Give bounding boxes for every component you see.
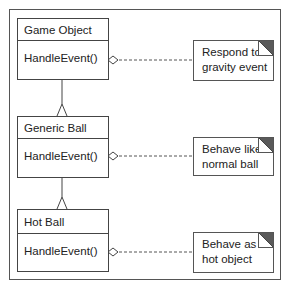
diamond-icon <box>108 152 118 160</box>
class-name: Game Object <box>18 19 108 41</box>
aggregation-arrow-icon <box>57 104 67 116</box>
class-operation: HandleEvent() <box>18 139 108 164</box>
aggregation-arrow-icon <box>57 197 67 209</box>
class-hot-ball: Hot Ball HandleEvent() <box>17 209 109 272</box>
class-game-object: Game Object HandleEvent() <box>17 18 109 80</box>
note-respond-gravity: Respond to gravity event <box>193 40 274 81</box>
class-operation: HandleEvent() <box>18 234 108 259</box>
folded-corner-icon <box>258 40 274 56</box>
class-operation: HandleEvent() <box>18 41 108 66</box>
class-generic-ball: Generic Ball HandleEvent() <box>17 116 109 178</box>
diamond-icon <box>108 248 118 256</box>
folded-corner-icon <box>258 137 274 153</box>
diamond-icon <box>108 56 118 64</box>
note-behave-hot: Behave as hot object <box>193 232 274 273</box>
class-name: Generic Ball <box>18 117 108 139</box>
class-name: Hot Ball <box>18 210 108 234</box>
note-behave-normal: Behave like normal ball <box>193 137 274 176</box>
folded-corner-icon <box>258 232 274 248</box>
